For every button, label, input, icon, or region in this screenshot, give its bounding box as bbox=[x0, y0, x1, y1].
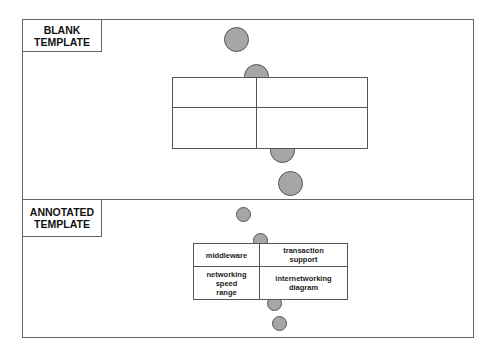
circle-marker bbox=[224, 27, 249, 52]
annotated-template-label: ANNOTATED TEMPLATE bbox=[22, 199, 102, 237]
label-line: ANNOTATED bbox=[30, 206, 94, 218]
table-cell-middleware: middleware bbox=[194, 244, 259, 266]
table-cell-networking-speed-range: networkingspeedrange bbox=[194, 267, 259, 299]
table-cell bbox=[257, 78, 367, 107]
label-line: TEMPLATE bbox=[30, 218, 94, 230]
circle-marker bbox=[278, 171, 303, 196]
blank-template-table bbox=[172, 77, 368, 149]
blank-template-label: BLANK TEMPLATE bbox=[22, 19, 102, 52]
label-line: TEMPLATE bbox=[34, 36, 90, 48]
label-line: BLANK bbox=[34, 24, 90, 36]
circle-marker bbox=[272, 316, 287, 331]
annotated-template-table: middleware transactionsupport networking… bbox=[193, 243, 348, 300]
circle-marker bbox=[236, 207, 251, 222]
table-cell bbox=[257, 108, 367, 148]
table-cell bbox=[173, 108, 257, 148]
table-cell-transaction-support: transactionsupport bbox=[260, 244, 347, 266]
table-cell-internetworking-diagram: internetworkingdiagram bbox=[260, 267, 347, 299]
table-cell bbox=[173, 78, 257, 107]
